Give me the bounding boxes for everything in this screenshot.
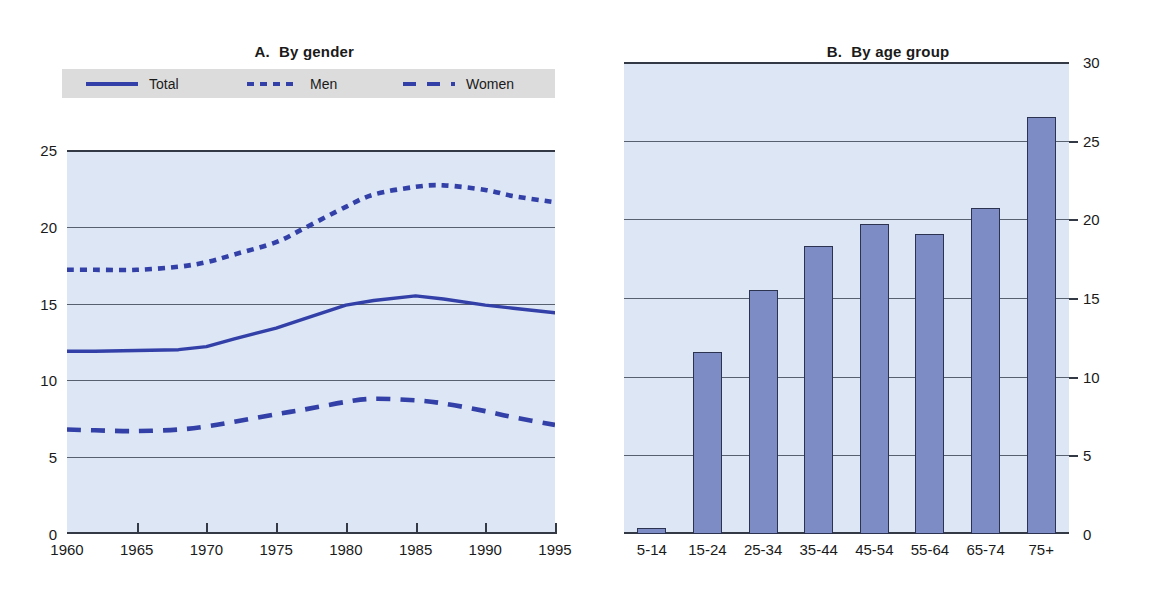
panel-a-plot-area <box>67 150 555 534</box>
panel-b-y-tick-label: 20 <box>1083 212 1100 227</box>
panel-b-y-tick-label: 5 <box>1083 448 1091 463</box>
legend-item-women: Women <box>403 69 514 98</box>
figure-root: A.By gender Total Men Women 0510152025 <box>0 0 1167 600</box>
panel-b-x-tick-label: 5-14 <box>637 541 667 558</box>
legend-label-men: Men <box>310 76 337 92</box>
panel-b-y-tick-label: 25 <box>1083 133 1100 148</box>
panel-b-y-tick-mark <box>1069 219 1078 221</box>
panel-b-y-tick-mark <box>1069 141 1078 143</box>
panel-a-y-tick-label: 5 <box>49 450 57 465</box>
panel-b-x-tick-label: 35-44 <box>800 541 838 558</box>
legend-swatch-dashed-icon <box>403 77 455 91</box>
panel-b-x-tick-label: 55-64 <box>911 541 949 558</box>
panel-a-y-tick-label: 0 <box>49 527 57 542</box>
panel-a-y-tick-label: 10 <box>40 373 57 388</box>
panel-b-title-text: By age group <box>851 43 949 60</box>
bar-55-64 <box>915 234 944 535</box>
legend-label-total: Total <box>149 76 179 92</box>
panel-a-y-axis-labels: 0510152025 <box>0 0 57 600</box>
panel-a-x-tick-label: 1965 <box>120 541 153 558</box>
panel-b-y-tick-label: 30 <box>1083 55 1100 70</box>
panel-b-bottom-axis <box>624 532 1069 534</box>
legend: Total Men Women <box>62 69 555 98</box>
panel-b-y-axis-labels: 051015202530 <box>1083 0 1143 600</box>
panel-b-gridline <box>624 219 1069 220</box>
panel-b-x-tick-label: 25-34 <box>744 541 782 558</box>
legend-item-total: Total <box>86 69 179 98</box>
panel-a-x-tick-mark <box>555 523 557 534</box>
panel-b-gridline <box>624 141 1069 142</box>
legend-swatch-dotted-icon <box>247 77 299 91</box>
series-line-total <box>67 296 555 351</box>
panel-b-y-tick-label: 10 <box>1083 369 1100 384</box>
panel-b-title-label: B. <box>827 43 842 60</box>
panel-b-gridline <box>624 377 1069 378</box>
bar-35-44 <box>804 246 833 534</box>
panel-b-plot-area <box>624 62 1069 534</box>
panel-b-x-tick-label: 75+ <box>1028 541 1053 558</box>
panel-b-x-tick-label: 15-24 <box>688 541 726 558</box>
panel-a-x-tick-label: 1970 <box>190 541 223 558</box>
bar-5-14 <box>637 528 666 534</box>
panel-a-x-tick-label: 1990 <box>469 541 502 558</box>
panel-a-title-text: By gender <box>279 43 354 60</box>
legend-label-women: Women <box>466 76 514 92</box>
panel-b-y-tick-label: 0 <box>1083 527 1091 542</box>
series-line-men <box>67 185 555 270</box>
panel-a-x-tick-label: 1985 <box>399 541 432 558</box>
panel-b-gridline <box>624 298 1069 299</box>
series-line-women <box>67 399 555 431</box>
panel-a-x-tick-label: 1995 <box>538 541 571 558</box>
panel-b-x-tick-label: 45-54 <box>855 541 893 558</box>
panel-a-y-tick-label: 25 <box>40 143 57 158</box>
panel-b-y-tick-mark <box>1069 377 1078 379</box>
panel-a-x-tick-label: 1960 <box>50 541 83 558</box>
panel-a-title-label: A. <box>255 43 270 60</box>
panel-b-y-tick-mark <box>1069 455 1078 457</box>
panel-a-y-tick-label: 15 <box>40 296 57 311</box>
panel-a-x-tick-label: 1980 <box>329 541 362 558</box>
panel-a-y-tick-label: 20 <box>40 219 57 234</box>
panel-a-x-tick-label: 1975 <box>259 541 292 558</box>
panel-a-series-lines <box>67 150 555 534</box>
bar-75+ <box>1027 117 1056 534</box>
legend-swatch-solid-icon <box>86 77 138 91</box>
panel-b-top-axis <box>624 62 1069 64</box>
legend-item-men: Men <box>247 69 337 98</box>
bar-25-34 <box>749 290 778 534</box>
bar-45-54 <box>860 224 889 534</box>
panel-b-gridline <box>624 455 1069 456</box>
panel-b-x-tick-label: 65-74 <box>966 541 1004 558</box>
bar-15-24 <box>693 352 722 535</box>
panel-b-y-tick-mark <box>1069 298 1078 300</box>
bar-65-74 <box>971 208 1000 534</box>
panel-a-by-gender: A.By gender Total Men Women 0510152025 <box>0 0 583 600</box>
panel-b-y-tick-label: 15 <box>1083 291 1100 306</box>
